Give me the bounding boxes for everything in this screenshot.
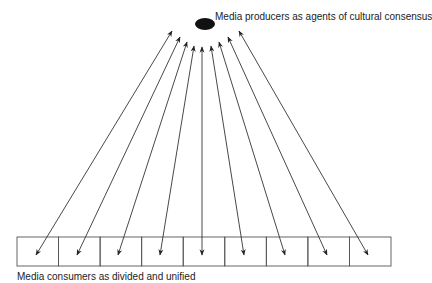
bidirectional-arrows xyxy=(36,31,368,255)
producer-node xyxy=(195,18,215,30)
consumer-box xyxy=(225,237,267,266)
consumer-boxes xyxy=(17,237,391,266)
double-arrow xyxy=(228,37,327,255)
consumer-box xyxy=(183,237,225,266)
consumer-box xyxy=(266,237,308,266)
double-arrow xyxy=(219,42,285,255)
consumer-label: Media consumers as divided and unified xyxy=(17,271,195,282)
double-arrow xyxy=(160,46,194,255)
double-arrow xyxy=(239,31,368,255)
consumer-box xyxy=(308,237,350,266)
double-arrow xyxy=(211,46,244,255)
consumer-box xyxy=(59,237,101,266)
consumer-box xyxy=(349,237,391,266)
double-arrow xyxy=(36,31,172,255)
consumer-box xyxy=(100,237,142,266)
double-arrow xyxy=(118,42,187,255)
producer-label: Media producers as agents of cultural co… xyxy=(215,11,432,22)
